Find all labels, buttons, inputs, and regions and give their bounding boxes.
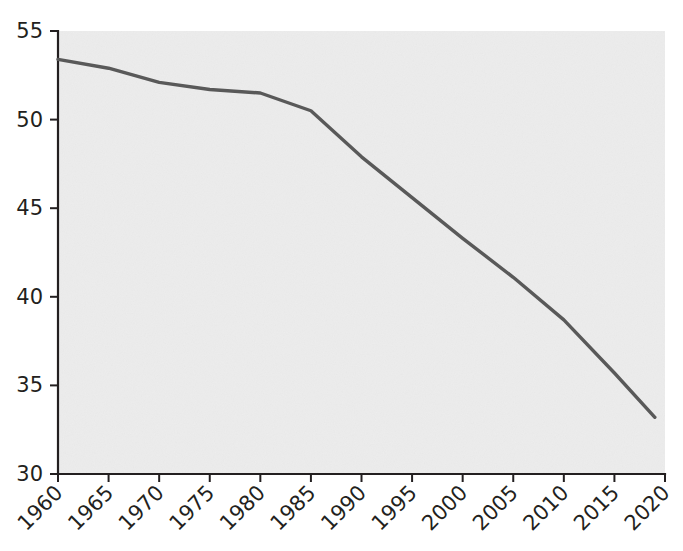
y-tick-label: 50 [16, 108, 43, 132]
y-tick-label: 35 [16, 373, 43, 397]
y-tick-label: 55 [16, 19, 43, 43]
line-chart: 303540455055 196019651970197519801985199… [0, 0, 683, 551]
plot-background [58, 31, 665, 474]
y-tick-label: 45 [16, 196, 43, 220]
y-tick-label: 40 [16, 285, 43, 309]
y-tick-label: 30 [16, 462, 43, 486]
chart-container: 303540455055 196019651970197519801985199… [0, 0, 683, 551]
plot-area [58, 31, 665, 474]
